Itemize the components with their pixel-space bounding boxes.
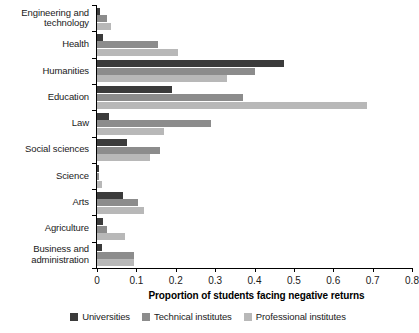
bar	[97, 226, 107, 233]
bar	[97, 233, 125, 240]
x-axis-tick-label: 0.6	[326, 275, 340, 286]
legend-label: Universities	[82, 311, 130, 322]
x-axis-tick-label: 0.3	[208, 275, 222, 286]
y-axis-category-label: Agriculture	[0, 223, 89, 234]
x-axis-tick-label: 0.1	[129, 275, 143, 286]
y-axis-category-label: Science	[0, 171, 89, 182]
legend-label: Professional institutes	[256, 311, 346, 322]
y-axis-tick	[92, 163, 97, 164]
legend-swatch-icon	[70, 313, 78, 321]
bar	[97, 181, 102, 188]
bar	[97, 34, 103, 41]
y-axis-category-label: Arts	[0, 197, 89, 208]
x-axis-tick	[333, 268, 334, 272]
bar	[97, 75, 227, 82]
x-axis-tick-label: 0.2	[169, 275, 183, 286]
y-axis-tick	[92, 215, 97, 216]
bar	[97, 199, 138, 206]
y-axis-label-line: Science	[0, 171, 89, 182]
y-axis-category-label: Humanities	[0, 66, 89, 77]
y-axis-tick	[92, 31, 97, 32]
y-axis-label-line: Health	[0, 39, 89, 50]
x-axis-tick	[373, 268, 374, 272]
y-axis-category-label: Law	[0, 118, 89, 129]
y-axis-label-line: technology	[0, 18, 89, 29]
y-axis-tick	[92, 268, 97, 269]
legend-swatch-icon	[142, 313, 150, 321]
bar	[97, 113, 109, 120]
x-axis-tick	[412, 268, 413, 272]
x-axis-tick	[294, 268, 295, 272]
y-axis-category-label: Business andadministration	[0, 244, 89, 265]
chart-legend: UniversitiesTechnical institutesProfessi…	[0, 311, 416, 322]
bar	[97, 252, 134, 259]
x-axis-tick-label: 0.7	[366, 275, 380, 286]
bar	[97, 86, 172, 93]
bar	[97, 49, 178, 56]
x-axis-tick	[215, 268, 216, 272]
bar	[97, 244, 102, 251]
x-axis-tick	[176, 268, 177, 272]
bar	[97, 259, 134, 266]
y-axis-label-line: Law	[0, 118, 89, 129]
bar	[97, 120, 211, 127]
bar	[97, 102, 367, 109]
legend-item: Universities	[70, 311, 130, 322]
x-axis-tick-label: 0.5	[287, 275, 301, 286]
y-axis-category-label: Education	[0, 92, 89, 103]
y-axis-tick	[92, 110, 97, 111]
y-axis-tick	[92, 137, 97, 138]
y-axis-tick	[92, 5, 97, 6]
x-axis-tick	[97, 268, 98, 272]
legend-label: Technical institutes	[154, 311, 232, 322]
bar	[97, 15, 107, 22]
y-axis-label-line: administration	[0, 255, 89, 266]
bar	[97, 8, 100, 15]
bar	[97, 147, 160, 154]
plot-area: 00.10.20.30.40.50.60.70.8	[97, 5, 412, 268]
legend-item: Professional institutes	[244, 311, 346, 322]
y-axis-tick	[92, 84, 97, 85]
bar	[97, 41, 158, 48]
y-axis-tick	[92, 58, 97, 59]
bar	[97, 154, 150, 161]
y-axis-category-label: Engineering andtechnology	[0, 8, 89, 29]
y-axis-label-line: Arts	[0, 197, 89, 208]
y-axis-category-label: Social sciences	[0, 144, 89, 155]
y-axis-label-line: Humanities	[0, 66, 89, 77]
x-axis-tick-label: 0	[94, 275, 100, 286]
y-axis-tick	[92, 189, 97, 190]
y-axis-tick	[92, 242, 97, 243]
bar	[97, 207, 144, 214]
x-axis-tick-label: 0.4	[248, 275, 262, 286]
x-axis-tick	[255, 268, 256, 272]
bar	[97, 139, 127, 146]
y-axis-label-line: Education	[0, 92, 89, 103]
x-axis-tick	[136, 268, 137, 272]
bar	[97, 128, 164, 135]
bar	[97, 68, 255, 75]
bar	[97, 23, 111, 30]
bar	[97, 173, 99, 180]
x-axis-title: Proportion of students facing negative r…	[97, 290, 416, 301]
y-axis-category-label: Health	[0, 39, 89, 50]
bar	[97, 165, 99, 172]
y-axis-category-labels: Engineering andtechnologyHealthHumanitie…	[0, 5, 93, 268]
legend-item: Technical institutes	[142, 311, 232, 322]
bar	[97, 218, 103, 225]
x-axis-tick-label: 0.8	[405, 275, 419, 286]
y-axis-label-line: Social sciences	[0, 144, 89, 155]
legend-swatch-icon	[244, 313, 252, 321]
y-axis-label-line: Agriculture	[0, 223, 89, 234]
bar	[97, 192, 123, 199]
bar	[97, 94, 243, 101]
bar	[97, 60, 284, 67]
